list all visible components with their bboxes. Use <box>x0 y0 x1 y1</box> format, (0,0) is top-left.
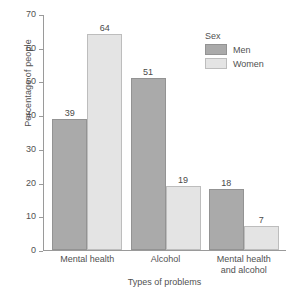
x-axis-title: Types of problems <box>43 277 286 287</box>
bar-women-2: 19 <box>166 186 201 250</box>
x-axis-label-line: Mental health <box>199 254 289 265</box>
legend-swatch-men-icon <box>205 44 227 55</box>
y-tick: 70 <box>39 15 43 16</box>
y-tick-label: 60 <box>26 43 36 53</box>
bar-value-label: 51 <box>132 68 165 77</box>
y-tick-label: 20 <box>26 178 36 188</box>
y-tick: 20 <box>39 184 43 185</box>
legend: Sex Men Women <box>205 31 264 72</box>
x-axis-label-1: Mental health <box>42 254 132 265</box>
legend-label-women: Women <box>233 59 264 69</box>
x-axis-label-line: Alcohol <box>121 254 211 265</box>
bar-men-3: 18 <box>209 189 244 250</box>
legend-label-men: Men <box>233 45 251 55</box>
legend-item-women[interactable]: Women <box>205 58 264 69</box>
legend-swatch-women-icon <box>205 58 227 69</box>
y-tick: 50 <box>39 82 43 83</box>
y-tick-label: 0 <box>31 245 36 255</box>
y-tick: 30 <box>39 150 43 151</box>
y-tick: 0 <box>39 251 43 252</box>
bar-women-3: 7 <box>244 226 279 250</box>
x-axis-line <box>43 250 286 251</box>
y-tick-label: 30 <box>26 144 36 154</box>
bar-value-label: 7 <box>245 216 278 225</box>
legend-title: Sex <box>205 31 264 41</box>
x-axis-label-3: Mental healthand alcohol <box>199 254 289 275</box>
y-tick: 40 <box>39 116 43 117</box>
bar-men-1: 39 <box>52 119 87 250</box>
bar-chart: Percentage of people 010203040506070 396… <box>0 0 295 295</box>
y-tick: 10 <box>39 217 43 218</box>
y-tick: 60 <box>39 49 43 50</box>
bar-value-label: 64 <box>88 24 121 33</box>
y-tick-label: 50 <box>26 76 36 86</box>
caption-sliver <box>8 289 287 294</box>
bar-value-label: 39 <box>53 109 86 118</box>
legend-item-men[interactable]: Men <box>205 44 264 55</box>
x-axis-label-line: and alcohol <box>199 265 289 276</box>
y-tick-label: 10 <box>26 211 36 221</box>
y-tick-label: 40 <box>26 110 36 120</box>
x-axis-label-line: Mental health <box>42 254 132 265</box>
y-tick-label: 70 <box>26 9 36 19</box>
x-axis-label-2: Alcohol <box>121 254 211 265</box>
bar-men-2: 51 <box>131 78 166 250</box>
bar-value-label: 19 <box>167 176 200 185</box>
bar-women-1: 64 <box>87 34 122 250</box>
bar-value-label: 18 <box>210 179 243 188</box>
